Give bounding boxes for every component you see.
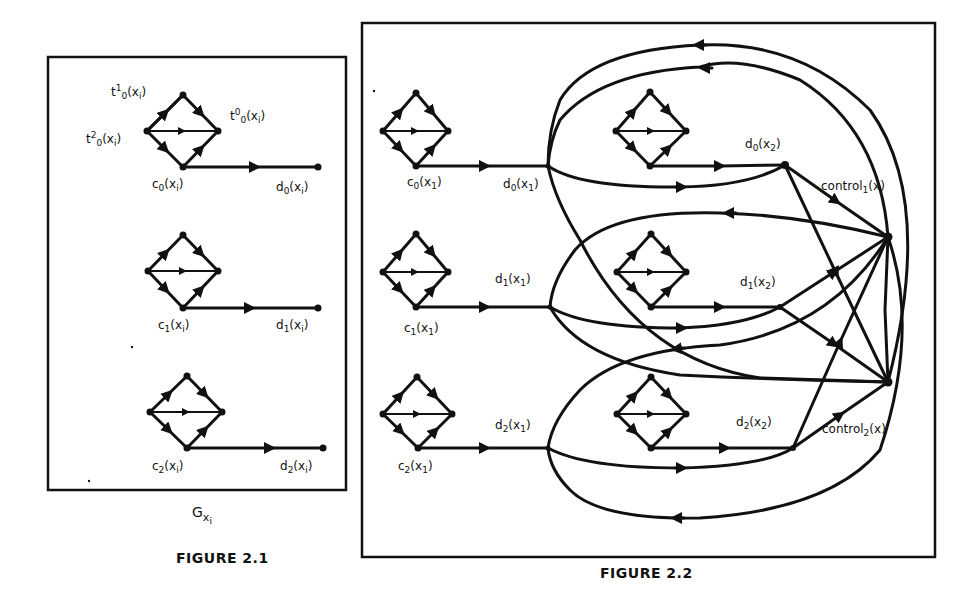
fig22-d0x1-label: d0(x1) <box>503 178 539 193</box>
fig21-t0-label: t00(xi) <box>230 108 265 125</box>
fig21-graph-label: Gxi <box>192 504 212 526</box>
fig21-d1-label: d1(xi) <box>276 319 308 334</box>
fig21-c1-label: c1(xi) <box>158 319 189 334</box>
fig22-control1-label: control1(x) <box>821 180 885 195</box>
fig22-mid-diamond-0 <box>616 92 785 166</box>
fig21-diamond-1 <box>148 235 318 308</box>
fig21-diamond-2 <box>150 376 323 448</box>
diagram-canvas <box>0 0 975 608</box>
fig22-left-diamond-2 <box>383 377 548 448</box>
fig22-d2x1-label: d2(x1) <box>495 419 531 434</box>
fig21-t1-label: t10(xi) <box>111 84 146 101</box>
fig22-d0x2-label: d0(x2) <box>745 138 781 153</box>
fig22-c2-label: c2(x1) <box>398 460 433 475</box>
fig21-c0-label: c0(xi) <box>152 178 183 193</box>
fig22-control2-label: control2(x) <box>822 423 886 438</box>
figure-2-1-frame <box>48 57 346 490</box>
fig21-c2-label: c2(xi) <box>152 460 183 475</box>
fig22-control-edges <box>780 165 888 448</box>
fig22-d1x1-label: d1(x1) <box>495 273 531 288</box>
fig22-caption: FIGURE 2.2 <box>600 565 693 581</box>
fig22-d2x2-label: d2(x2) <box>736 416 772 431</box>
fig22-mid-diamond-2 <box>617 377 793 448</box>
fig22-d1x2-label: d1(x2) <box>740 276 776 291</box>
fig22-c1-label: c1(x1) <box>404 322 439 337</box>
fig21-caption: FIGURE 2.1 <box>176 550 269 566</box>
fig21-d2-label: d2(xi) <box>280 460 312 475</box>
fig22-left-diamond-0 <box>383 93 548 166</box>
fig22-left-diamond-1 <box>383 234 550 307</box>
fig22-mid-diamond-1 <box>617 234 780 307</box>
fig22-c0-label: c0(x1) <box>407 176 442 191</box>
fig21-diamond-0 <box>147 95 318 167</box>
fig21-d0-label: d0(xi) <box>276 181 308 196</box>
fig21-t2-label: t20(xi) <box>86 131 121 148</box>
